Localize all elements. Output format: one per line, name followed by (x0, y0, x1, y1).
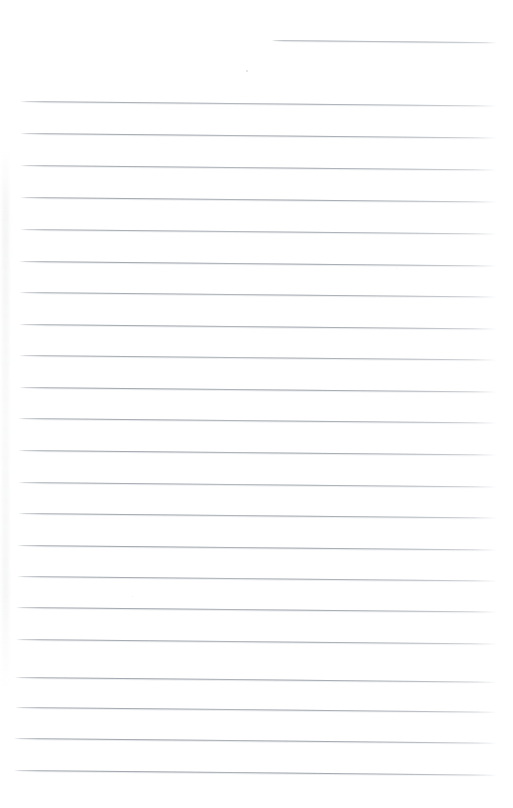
ruled-line (19, 261, 497, 267)
ruled-line (20, 229, 497, 235)
ruled-line-halo (19, 355, 497, 362)
ruled-line-ink (19, 387, 497, 393)
ruled-line-halo (18, 449, 497, 456)
ruled-line (15, 677, 497, 683)
ruled-line (20, 101, 497, 107)
ruled-line-ink (16, 639, 497, 645)
ruled-line (14, 738, 497, 744)
ruled-line-ink (19, 324, 497, 330)
ruled-line-halo (15, 707, 497, 714)
ruled-line-halo (18, 481, 497, 488)
ruled-line-halo (20, 101, 497, 108)
ruled-line-halo (16, 638, 497, 645)
scan-speck (132, 596, 133, 597)
scan-speck (396, 268, 397, 269)
ruled-line (17, 576, 497, 582)
ruled-line-halo (18, 418, 497, 425)
ruled-line-halo (19, 386, 497, 393)
ruled-line-ink (19, 261, 497, 267)
scan-speck (246, 70, 248, 72)
ruled-line-halo (17, 576, 497, 583)
ruled-line (14, 770, 497, 776)
ruled-line-halo (20, 228, 497, 235)
scan-gutter-smudge (2, 150, 9, 690)
ruled-line-halo (17, 544, 497, 551)
ruled-line-ink (17, 545, 497, 551)
ruled-line-ink (20, 229, 497, 235)
ruled-line-halo (16, 607, 497, 614)
ruled-line-ink (19, 292, 497, 298)
ruled-line-ink (272, 40, 497, 43)
ruled-line-ink (19, 355, 497, 361)
ruled-line-ink (15, 707, 497, 713)
ruled-line-halo (272, 39, 497, 43)
ruled-line (16, 607, 497, 613)
ruled-line (17, 545, 497, 551)
ruled-line-ink (17, 576, 497, 582)
ruled-line (19, 387, 497, 393)
ruled-line (15, 707, 497, 713)
ruled-line-ink (18, 450, 497, 456)
ruled-line-ink (18, 482, 497, 488)
ruled-line (18, 482, 497, 488)
ruled-line (20, 133, 497, 139)
ruled-line (20, 197, 497, 203)
ruled-line (20, 165, 497, 171)
ruled-line-halo (19, 323, 497, 330)
ruled-line-ink (15, 677, 497, 683)
ruled-line-halo (19, 260, 497, 267)
ruled-line-halo (18, 513, 497, 520)
ruled-line-ink (20, 165, 497, 171)
ruled-line-ink (20, 197, 497, 203)
ruled-line (19, 292, 497, 298)
ruled-line-halo (14, 769, 497, 776)
ruled-line-halo (20, 196, 497, 203)
ruled-line-halo (19, 292, 497, 299)
ruled-line-halo (15, 676, 497, 683)
ruled-line (16, 639, 497, 645)
ruled-line-ink (14, 738, 497, 744)
ruled-line (18, 418, 497, 424)
ruled-line (18, 450, 497, 456)
ruled-line-halo (20, 164, 497, 171)
ruled-line-ink (20, 133, 497, 139)
ruled-line-ink (18, 418, 497, 424)
scanned-page (0, 0, 513, 808)
ruled-line-partial (272, 40, 497, 43)
ruled-line-ink (18, 513, 497, 519)
ruled-line-ink (14, 770, 497, 776)
ruled-line-ink (16, 607, 497, 613)
paper-background (0, 0, 513, 808)
ruled-line-ink (20, 101, 497, 107)
ruled-line (18, 513, 497, 519)
ruled-line (19, 355, 497, 361)
ruled-line-halo (14, 738, 497, 745)
ruled-line-halo (20, 133, 497, 140)
ruled-line (19, 324, 497, 330)
